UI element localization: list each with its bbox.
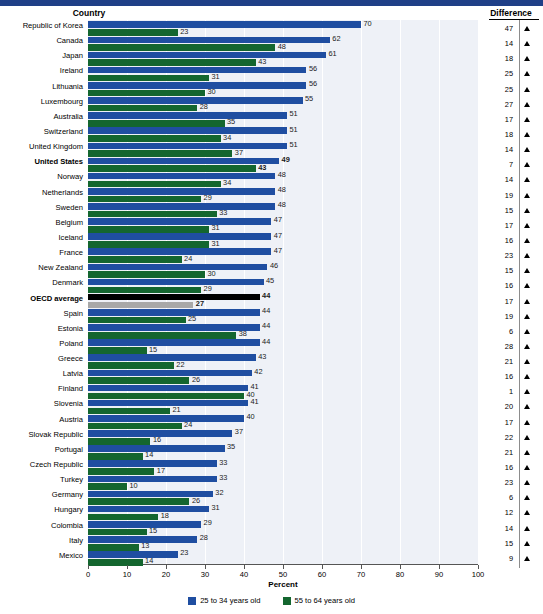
row-label-country: Mexico: [0, 550, 83, 568]
bar-young: [88, 385, 248, 392]
bar-young: [88, 112, 287, 119]
bar-value-label: 61: [328, 51, 336, 58]
bar-young: [88, 506, 209, 513]
bar-value-label: 43: [258, 354, 266, 361]
x-tick-label: 40: [232, 570, 256, 579]
x-tick-label: 80: [388, 570, 412, 579]
bar-value-label: 44: [262, 323, 270, 330]
column-header-country: Country: [0, 8, 178, 18]
legend-item: 25 to 34 years old: [188, 596, 260, 605]
triangle-up-icon: [524, 314, 530, 319]
top-decorative-band: [0, 0, 543, 6]
difference-value: 16: [487, 463, 513, 472]
triangle-up-icon: [524, 162, 530, 167]
x-tick: [283, 565, 284, 569]
bar-young: [88, 415, 244, 422]
bar-value-label: 44: [262, 308, 270, 315]
bar-value-label: 70: [364, 21, 372, 28]
x-tick: [439, 565, 440, 569]
difference-value: 14: [487, 145, 513, 154]
bar-young: [88, 476, 217, 483]
x-axis-title: Percent: [88, 580, 478, 589]
difference-value: 21: [487, 448, 513, 457]
triangle-up-icon: [524, 556, 530, 561]
difference-value: 14: [487, 175, 513, 184]
triangle-up-icon: [524, 541, 530, 546]
x-tick-label: 50: [271, 570, 295, 579]
triangle-up-icon: [524, 299, 530, 304]
x-tick: [244, 565, 245, 569]
chart-legend: 25 to 34 years old55 to 64 years old: [0, 596, 543, 605]
triangle-up-icon: [524, 26, 530, 31]
triangle-up-icon: [524, 253, 530, 258]
difference-value: 18: [487, 54, 513, 63]
difference-value: 23: [487, 251, 513, 260]
bar-young: [88, 158, 279, 165]
difference-value: 19: [487, 191, 513, 200]
difference-value: 19: [487, 312, 513, 321]
difference-value: 25: [487, 85, 513, 94]
difference-value: 12: [487, 508, 513, 517]
bar-young: [88, 203, 275, 210]
bar-young: [88, 218, 271, 225]
bar-value-label: 40: [247, 414, 255, 421]
bar-value-label: 48: [278, 172, 286, 179]
triangle-up-icon: [524, 177, 530, 182]
difference-value: 21: [487, 357, 513, 366]
x-tick: [205, 565, 206, 569]
legend-swatch: [188, 597, 196, 605]
triangle-up-icon: [524, 117, 530, 122]
difference-value: 9: [487, 554, 513, 563]
difference-value: 16: [487, 372, 513, 381]
bar-value-label: 41: [250, 399, 258, 406]
triangle-up-icon: [524, 268, 530, 273]
bar-value-label: 37: [235, 429, 243, 436]
triangle-up-icon: [524, 132, 530, 137]
triangle-up-icon: [524, 435, 530, 440]
difference-value: 15: [487, 206, 513, 215]
bar-value-label: 47: [274, 248, 282, 255]
chart-row: Mexico23149: [0, 550, 543, 568]
triangle-up-icon: [524, 223, 530, 228]
triangle-up-icon: [524, 359, 530, 364]
triangle-up-icon: [524, 450, 530, 455]
x-tick-label: 30: [193, 570, 217, 579]
bar-young: [88, 370, 252, 377]
bar-value-label: 23: [180, 550, 188, 557]
bar-value-label: 51: [289, 127, 297, 134]
bar-young: [88, 521, 201, 528]
bar-young: [88, 551, 178, 558]
bar-value-label: 32: [215, 490, 223, 497]
bar-value-label: 33: [219, 475, 227, 482]
bar-young: [88, 460, 217, 467]
x-tick-label: 90: [427, 570, 451, 579]
bar-young: [88, 97, 303, 104]
triangle-up-icon: [524, 56, 530, 61]
triangle-up-icon: [524, 465, 530, 470]
difference-value: 15: [487, 539, 513, 548]
bar-value-label: 47: [274, 233, 282, 240]
legend-label: 55 to 64 years old: [295, 596, 355, 605]
bar-young: [88, 188, 275, 195]
bar-young: [88, 52, 326, 59]
bar-value-label: 42: [254, 369, 262, 376]
x-tick-label: 0: [76, 570, 100, 579]
triangle-up-icon: [524, 41, 530, 46]
difference-value: 28: [487, 342, 513, 351]
difference-value: 6: [487, 493, 513, 502]
bar-value-label: 44: [262, 293, 270, 300]
difference-value: 17: [487, 297, 513, 306]
triangle-up-icon: [524, 374, 530, 379]
triangle-up-icon: [524, 344, 530, 349]
x-tick: [400, 565, 401, 569]
difference-value: 20: [487, 402, 513, 411]
legend-swatch: [283, 597, 291, 605]
triangle-up-icon: [524, 526, 530, 531]
bar-young: [88, 37, 330, 44]
triangle-up-icon: [524, 404, 530, 409]
difference-value: 6: [487, 327, 513, 336]
x-tick: [166, 565, 167, 569]
difference-value: 15: [487, 266, 513, 275]
bar-young: [88, 127, 287, 134]
triangle-up-icon: [524, 87, 530, 92]
